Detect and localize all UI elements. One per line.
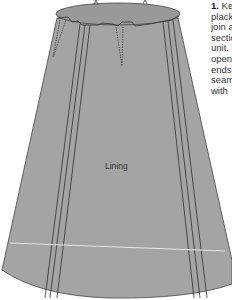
instruction-caption: 1. Ke plack join a sectio unit. open end… [211, 1, 232, 96]
skirt-body [2, 18, 232, 298]
caption-line: with [211, 86, 232, 97]
step-number: 1. [211, 0, 219, 11]
caption-line: open [211, 54, 232, 65]
caption-line: Ke [222, 0, 232, 11]
skirt-lining-illustration [0, 0, 232, 300]
lining-label: Lining [105, 161, 128, 171]
tab-right [143, 0, 147, 4]
